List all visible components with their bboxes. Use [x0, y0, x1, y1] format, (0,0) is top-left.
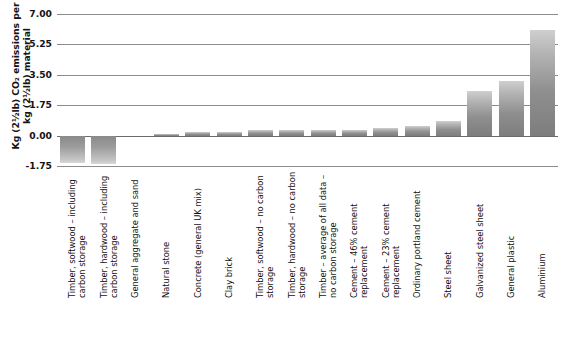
- x-axis-category-labels: Timber, softwood – including carbon stor…: [57, 166, 558, 362]
- y-tick-label: 3.50: [29, 70, 52, 80]
- bar: [248, 130, 273, 135]
- y-tick-label: 0.00: [29, 131, 52, 141]
- x-axis-label: Concrete (general UK mix): [194, 166, 204, 298]
- bar: [311, 130, 336, 136]
- bar: [123, 136, 148, 137]
- bar: [60, 136, 85, 164]
- bar: [217, 132, 242, 135]
- bar: [185, 132, 210, 135]
- bar: [405, 126, 430, 136]
- x-axis-label: Timber, hardwood – no carbon storage: [288, 166, 307, 298]
- bar: [467, 91, 492, 135]
- bar: [154, 134, 179, 136]
- x-axis-label: Steel sheet: [444, 166, 454, 298]
- x-axis-label: Timber, hardwood – including carbon stor…: [100, 166, 119, 298]
- x-axis-label: Galvanized steel sheet: [476, 166, 486, 298]
- bar: [530, 30, 555, 136]
- bar: [279, 130, 304, 135]
- y-tick-label: 7.00: [29, 9, 52, 19]
- x-axis-label: Cement – 46% cement replacement: [350, 166, 369, 298]
- bar: [373, 128, 398, 136]
- bar: [436, 121, 461, 135]
- x-axis-label: Cement – 23% cement replacement: [382, 166, 401, 298]
- x-axis-label: General aggregate and sand: [131, 166, 141, 298]
- bars-container: [57, 14, 558, 166]
- co2-emissions-bar-chart: Kg (2½lb) CO₂ emissions perkg (2½lb) mat…: [0, 0, 561, 364]
- y-tick-label: 5.25: [29, 39, 52, 49]
- x-axis-label: Timber – average of all data – no carbon…: [319, 166, 338, 298]
- x-axis-label: Timber, softwood – no carbon storage: [256, 166, 275, 298]
- x-axis-label: Clay brick: [225, 166, 235, 298]
- bar: [499, 81, 524, 135]
- bar: [342, 130, 367, 136]
- plot-area: 7.005.253.501.750.00-1.75: [57, 14, 558, 166]
- bar: [91, 136, 116, 164]
- x-axis-label: General plastic: [507, 166, 517, 298]
- y-tick-label: 1.75: [29, 100, 52, 110]
- x-axis-label: Ordinary portland cement: [413, 166, 423, 298]
- y-tick-label: -1.75: [26, 161, 52, 171]
- x-axis-label: Timber, softwood – including carbon stor…: [68, 166, 87, 298]
- x-axis-label: Natural stone: [162, 166, 172, 298]
- x-axis-label: Aluminium: [538, 166, 548, 298]
